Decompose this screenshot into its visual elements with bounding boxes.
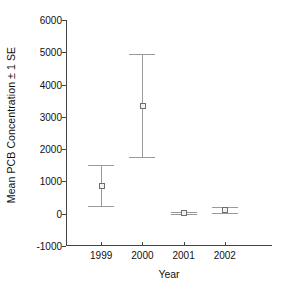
x-axis-tick-mark [101, 242, 102, 246]
data-point-marker [222, 207, 228, 213]
data-point-marker [99, 183, 105, 189]
x-axis-tick-labels: 1999200020012002 [66, 250, 272, 266]
x-axis-tick-mark [225, 242, 226, 246]
error-bar-cap-lower [129, 157, 155, 158]
y-axis-tick-mark [62, 246, 66, 247]
y-axis-tick-label: -1000 [20, 241, 62, 252]
y-axis-tick-label: 3000 [20, 111, 62, 122]
y-axis-label-container: Mean PCB Concentration ± 1 SE [0, 0, 22, 250]
y-axis-tick-label: 5000 [20, 47, 62, 58]
y-axis-tick-label: 1000 [20, 176, 62, 187]
x-axis-tick-label: 2001 [172, 250, 194, 261]
y-axis-tick-label: 4000 [20, 79, 62, 90]
x-axis-tick-label: 1999 [90, 250, 112, 261]
y-axis-tick-labels: -10000100020003000400050006000 [20, 0, 62, 301]
y-axis-line [66, 20, 67, 246]
plot-area [66, 20, 272, 246]
y-axis-label: Mean PCB Concentration ± 1 SE [5, 47, 17, 203]
y-axis-tick-mark [62, 181, 66, 182]
data-point-marker [140, 103, 146, 109]
y-axis-tick-label: 2000 [20, 144, 62, 155]
y-axis-tick-mark [62, 20, 66, 21]
data-point-marker [181, 210, 187, 216]
error-bar-cap-upper [88, 165, 114, 166]
y-axis-tick-label: 0 [20, 208, 62, 219]
x-axis-tick-mark [184, 242, 185, 246]
x-axis-line [66, 245, 272, 246]
x-axis-tick-label: 2000 [131, 250, 153, 261]
error-bar-cap-lower [88, 206, 114, 207]
x-axis-tick-mark [142, 242, 143, 246]
y-axis-tick-mark [62, 85, 66, 86]
error-bar-cap-upper [129, 54, 155, 55]
error-bar-cap-lower [212, 213, 238, 214]
x-axis-tick-label: 2002 [214, 250, 236, 261]
y-axis-tick-mark [62, 117, 66, 118]
y-axis-tick-mark [62, 52, 66, 53]
chart-figure: Mean PCB Concentration ± 1 SE -100001000… [0, 0, 292, 301]
x-axis-label: Year [66, 268, 272, 280]
y-axis-tick-mark [62, 149, 66, 150]
y-axis-tick-mark [62, 214, 66, 215]
y-axis-tick-label: 6000 [20, 15, 62, 26]
